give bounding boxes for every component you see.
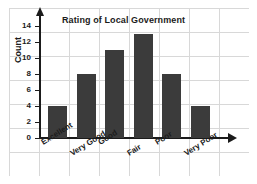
bar	[134, 34, 153, 138]
y-axis-arrow-icon	[36, 7, 44, 16]
y-tick-label: 8	[27, 70, 31, 78]
chart-title: Rating of Local Government	[62, 15, 185, 25]
y-tick-label: 14	[22, 22, 31, 30]
x-axis-labels: ExcellentVery GoodGoodFairPoorVery Poor	[40, 140, 240, 184]
x-tick-label: Fair	[126, 143, 143, 158]
bar	[191, 106, 210, 138]
bar	[105, 50, 124, 138]
y-tick-label: 12	[22, 38, 31, 46]
y-tick-label: 2	[27, 118, 31, 126]
y-tick-label: 10	[22, 54, 31, 62]
y-tick-label: 0	[27, 134, 31, 142]
bar-chart: Rating of Local Government Count 0246810…	[0, 0, 257, 184]
bar	[77, 74, 96, 138]
bar	[162, 74, 181, 138]
y-tick-label: 6	[27, 86, 31, 94]
y-tick-label: 4	[27, 102, 31, 110]
